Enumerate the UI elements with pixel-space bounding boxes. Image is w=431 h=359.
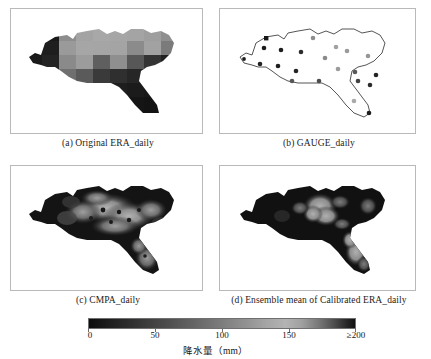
colorbar-tick-200: ≥200 xyxy=(347,330,365,340)
panel-a-caption: (a) Original ERA_daily xyxy=(10,138,206,148)
calibrated-era-raster xyxy=(236,182,416,282)
colorbar-tick-0: 0 xyxy=(88,330,93,340)
panel-b-caption: (b) GAUGE_daily xyxy=(219,138,419,148)
colorbar: 0 50 100 150 ≥200 降水量（mm） xyxy=(0,316,431,359)
panel-c-caption: (c) CMPA_daily xyxy=(10,295,206,305)
panel-c-plot-area xyxy=(10,165,203,291)
colorbar-tick-150: 150 xyxy=(282,330,296,340)
region-outline xyxy=(240,29,385,117)
panel-b-plot-area xyxy=(219,8,416,134)
panel-a-plot-area xyxy=(10,8,203,134)
panel-d-calibrated-era-ensemble-mean: (d) Ensemble mean of Calibrated ERA_dail… xyxy=(219,165,419,313)
colorbar-tick-50: 50 xyxy=(151,330,160,340)
map-gauge-daily xyxy=(220,9,416,134)
panel-a-original-era: (a) Original ERA_daily xyxy=(10,8,206,156)
panel-d-plot-area xyxy=(219,165,416,291)
map-era-daily xyxy=(11,9,203,134)
panel-c-cmpa-daily: (c) CMPA_daily xyxy=(10,165,206,313)
cmpa-raster xyxy=(25,182,203,282)
colorbar-tick-100: 100 xyxy=(215,330,229,340)
era-coarse-cells xyxy=(25,27,203,123)
colorbar-tick-labels: 0 50 100 150 ≥200 xyxy=(0,330,431,343)
panel-grid: (a) Original ERA_daily xyxy=(0,0,431,315)
map-calibrated-era-daily xyxy=(220,166,416,291)
map-cmpa-daily xyxy=(11,166,203,291)
panel-b-gauge-daily: (b) GAUGE_daily xyxy=(219,8,419,156)
colorbar-gradient xyxy=(88,318,356,329)
panel-d-caption: (d) Ensemble mean of Calibrated ERA_dail… xyxy=(219,295,419,305)
colorbar-title: 降水量（mm） xyxy=(0,343,431,357)
figure-precipitation-panels: (a) Original ERA_daily xyxy=(0,0,431,359)
